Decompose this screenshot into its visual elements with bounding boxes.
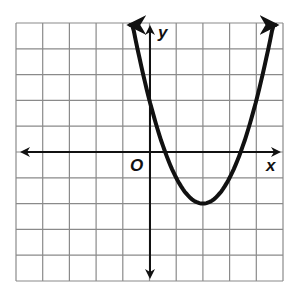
x-axis-label: x: [265, 156, 277, 175]
origin-label: O: [130, 156, 143, 175]
y-axis-label: y: [157, 23, 169, 42]
coordinate-graph: y x O: [0, 0, 291, 298]
